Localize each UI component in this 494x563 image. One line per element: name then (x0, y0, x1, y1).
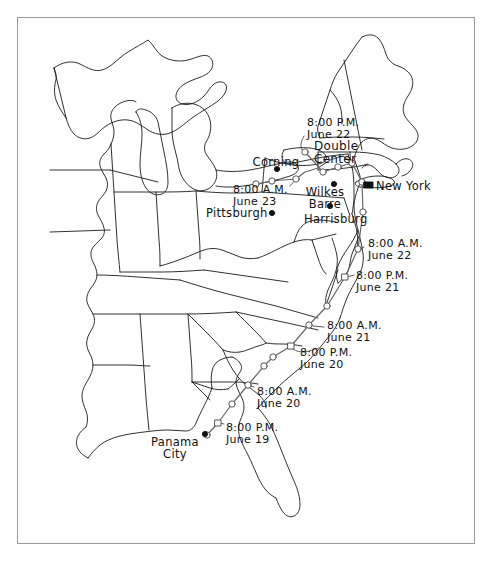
track-marker (229, 401, 235, 407)
track-time-t-june-20-pm-line: June 20 (300, 359, 352, 371)
track-time-t-june-22-pm-line: 8:00 P.M. (307, 117, 359, 129)
track-marker (270, 354, 276, 360)
track-time-t-june-19-pm-line: 8:00 P.M. (226, 422, 278, 434)
city-label-pittsburgh: Pittsburgh (206, 207, 268, 219)
track-time-t-june-23-am-line: 8:00 A.M. (233, 184, 288, 196)
track-time-t-june-22-pm: 8:00 P.M.June 22 (307, 117, 359, 140)
track-marker (355, 246, 361, 252)
city-label-harrisburg: Harrisburg (304, 213, 368, 225)
track-time-t-june-20-pm-line: 8:00 P.M. (300, 347, 352, 359)
track-time-t-june-23-am-line: June 23 (233, 196, 288, 208)
track-time-t-june-21-am-line: June 21 (327, 332, 382, 344)
track-marker (324, 303, 330, 309)
city-label-pittsburgh-line: Pittsburgh (206, 207, 268, 219)
track-time-t-june-21-am: 8:00 A.M.June 21 (327, 320, 382, 343)
track-time-t-june-19-pm: 8:00 P.M.June 19 (226, 422, 278, 445)
city-label-wilkes-barre-line: Barre (306, 198, 345, 210)
track-time-t-june-20-am-line: June 20 (257, 398, 312, 410)
track-marker (293, 176, 299, 182)
city-dot (202, 431, 207, 436)
city-label-panama-city: PanamaCity (151, 436, 199, 460)
track-time-t-june-21-pm: 8:00 P.M.June 21 (356, 270, 408, 293)
city-label-panama-city-line: City (151, 448, 199, 460)
track-marker (215, 420, 221, 426)
track-time-t-june-22-am: 8:00 A.M.June 22 (368, 238, 423, 261)
track-marker (288, 343, 294, 349)
track-marker (261, 363, 267, 369)
city-label-wilkes-barre: WilkesBarre (306, 186, 345, 210)
city-label-corning: Corning (253, 156, 300, 168)
track-time-t-june-20-am: 8:00 A.M.June 20 (257, 386, 312, 409)
track-marker (306, 322, 312, 328)
great-lakes-outline (54, 40, 327, 195)
western-boundary (82, 100, 136, 427)
track-time-t-june-23-am: 8:00 A.M.June 23 (233, 184, 288, 207)
track-marker (245, 382, 251, 388)
city-dot (364, 182, 373, 188)
track-marker (302, 149, 308, 155)
track-time-t-june-20-am-line: 8:00 A.M. (257, 386, 312, 398)
track-time-t-june-21-am-line: 8:00 A.M. (327, 320, 382, 332)
annotation-double-center: DoubleCenter (314, 140, 358, 165)
city-label-new-york-line: New York (376, 180, 431, 192)
city-label-new-york: New York (376, 180, 431, 192)
track-time-t-june-22-am-line: 8:00 A.M. (368, 238, 423, 250)
city-label-harrisburg-line: Harrisburg (304, 213, 368, 225)
track-time-t-june-22-pm-line: June 22 (307, 129, 359, 141)
city-label-corning-line: Corning (253, 156, 300, 168)
map-figure: CorningWilkesBarreNew YorkPittsburghHarr… (0, 0, 494, 563)
map-graphic (0, 0, 494, 563)
track-marker (342, 274, 348, 280)
city-dot (269, 210, 274, 215)
track-time-t-june-20-pm: 8:00 P.M.June 20 (300, 347, 352, 370)
track-time-t-june-21-pm-line: June 21 (356, 282, 408, 294)
track-time-t-june-22-am-line: June 22 (368, 250, 423, 262)
track-time-t-june-19-pm-line: June 19 (226, 434, 278, 446)
track-time-t-june-21-pm-line: 8:00 P.M. (356, 270, 408, 282)
annotation-double-center-line: Double (314, 140, 358, 153)
track-marker (320, 169, 326, 175)
annotation-double-center-line: Center (314, 153, 358, 166)
